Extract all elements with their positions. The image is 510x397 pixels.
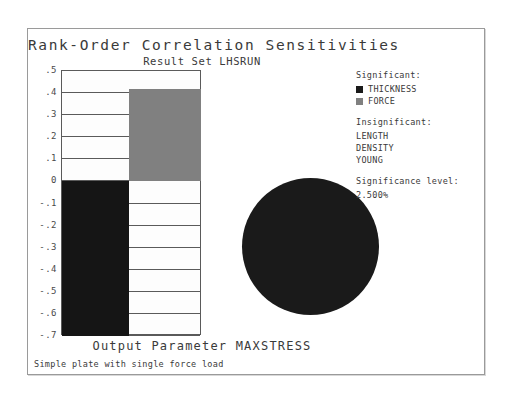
legend-label: FORCE [368,95,395,108]
y-axis-tick-label: 0 [27,175,57,185]
y-axis-tick-label: -.4 [27,264,57,274]
chart-subtitle: Result Set LHSRUN [28,55,376,67]
x-axis-label: Output Parameter MAXSTRESS [28,339,376,353]
bar-thickness [62,181,129,336]
chart-frame: Rank-Order Correlation Sensitivities Res… [27,28,485,375]
bar-force [129,89,201,182]
legend-spacer [356,166,481,175]
legend-item-thickness: THICKNESS [356,83,481,95]
legend-swatch-icon [356,86,363,93]
legend-insignificant-header: Insignificant: [356,116,481,129]
y-axis-tick-label: .2 [27,131,57,141]
y-axis-tick-label: .3 [27,109,57,119]
legend: Significant: THICKNESS FORCE Insignifica… [356,69,481,201]
y-axis-tick-label: -.6 [27,308,57,318]
significance-level-header: Significance level: [356,175,481,188]
legend-item-force: FORCE [356,95,481,107]
chart-title: Rank-Order Correlation Sensitivities [28,37,376,53]
y-axis-tick-label: .5 [27,65,57,75]
y-axis-tick-label: -.1 [27,198,57,208]
legend-swatch-icon [356,98,363,105]
y-axis-tick-label: -.5 [27,286,57,296]
legend-insignificant-item: LENGTH [356,130,481,142]
y-axis-tick-label: .4 [27,87,57,97]
y-axis-tick-label: -.3 [27,242,57,252]
bar-plot-area [61,70,201,335]
legend-spacer [356,107,481,116]
legend-insignificant-item: YOUNG [356,154,481,166]
y-axis-tick-label: .1 [27,153,57,163]
legend-insignificant-item: DENSITY [356,142,481,154]
legend-significant-header: Significant: [356,69,481,82]
y-axis-tick-label: -.2 [27,220,57,230]
footer-note: Simple plate with single force load [34,359,224,369]
significance-level-value: 2.500% [356,189,481,201]
